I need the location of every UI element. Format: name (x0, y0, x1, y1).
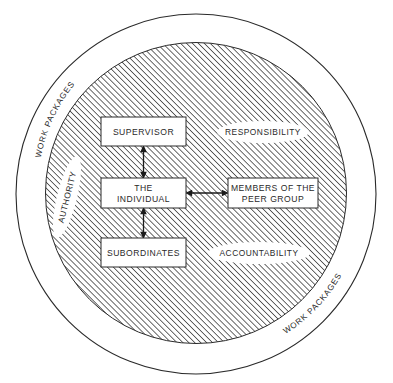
peer-group-label-line1: MEMBERS OF THE (231, 183, 315, 193)
supervisor-box: SUPERVISOR (101, 117, 186, 146)
subordinates-label: SUBORDINATES (107, 248, 180, 258)
accountability-oval: ACCOUNTABILITY (208, 242, 310, 264)
responsibility-oval: RESPONSIBILITY (217, 121, 309, 143)
supervisor-label: SUPERVISOR (113, 127, 174, 137)
responsibility-label: RESPONSIBILITY (225, 127, 301, 137)
subordinates-box: SUBORDINATES (101, 238, 186, 267)
individual-label-line1: THE (134, 183, 153, 193)
accountability-label: ACCOUNTABILITY (220, 248, 299, 258)
peer-group-label-line2: PEER GROUP (242, 194, 304, 204)
peer-group-box: MEMBERS OF THE PEER GROUP (228, 178, 318, 208)
individual-relationships-diagram: WORK PACKAGES WORK PACKAGES SUPERVISOR T… (0, 0, 393, 383)
individual-box: THE INDIVIDUAL (101, 178, 186, 208)
individual-label-line2: INDIVIDUAL (117, 194, 170, 204)
